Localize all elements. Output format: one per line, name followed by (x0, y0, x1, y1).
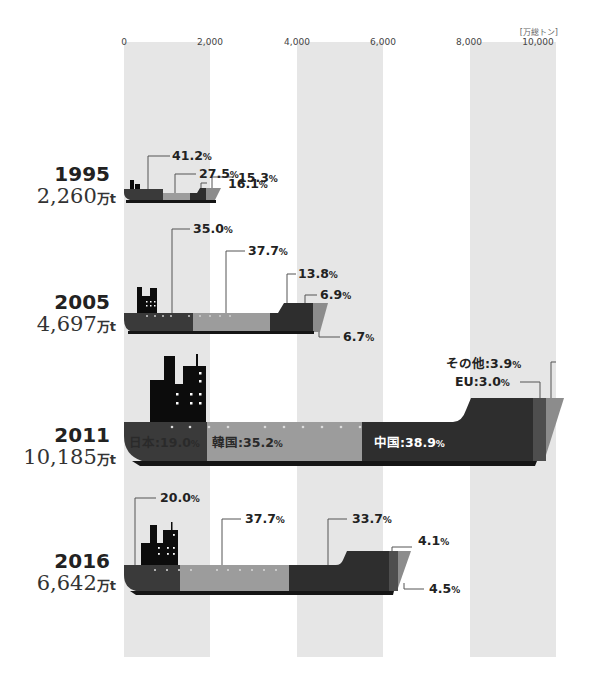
label-2011-china: 中国:38.9% (374, 432, 445, 451)
total-value: 4,697 (37, 312, 97, 336)
label-1995-eu: 15.3% (238, 170, 278, 185)
bridge-icon (137, 287, 142, 313)
label-2011-korea: 韓国:35.2% (212, 432, 283, 451)
label-2016-other: 4.5% (429, 581, 460, 596)
label-2011-other: その他:3.9% (446, 353, 521, 372)
bridge-icon (150, 380, 164, 422)
bridge-icon (141, 543, 150, 565)
label-2005-china: 13.8% (298, 266, 338, 281)
row-total-1995: 2,260万t (0, 184, 116, 208)
label-2005-korea: 37.7% (248, 243, 288, 258)
bridge-icon (130, 180, 134, 189)
row-total-2016: 6,642万t (0, 571, 116, 595)
label-2011-eu: EU:3.0% (455, 374, 510, 389)
label-2005-eu: 6.9% (320, 287, 351, 302)
row-total-2011: 10,185万t (0, 445, 116, 469)
total-unit: 万t (97, 319, 116, 334)
label-2011-japan: 日本:19.0% (129, 432, 200, 451)
row-total-2005: 4,697万t (0, 312, 116, 336)
label-2016-korea: 37.7% (245, 511, 285, 526)
label-1995-japan: 41.2% (172, 148, 212, 163)
label-2005-other: 6.7% (343, 329, 374, 344)
row-year-2016: 2016 (0, 549, 110, 573)
label-2005-japan: 35.0% (193, 221, 233, 236)
row-year-1995: 1995 (0, 162, 110, 186)
ship-2005 (124, 229, 340, 337)
label-2016-china: 33.7% (352, 511, 392, 526)
row-year-2005: 2005 (0, 290, 110, 314)
total-value: 2,260 (37, 184, 97, 208)
total-value: 6,642 (37, 571, 97, 595)
row-year-2011: 2011 (0, 423, 110, 447)
label-2016-eu: 4.1% (418, 533, 449, 548)
total-unit: 万t (97, 452, 116, 467)
total-unit: 万t (97, 578, 116, 593)
total-value: 10,185 (23, 445, 96, 469)
label-2016-japan: 20.0% (160, 490, 200, 505)
total-unit: 万t (97, 191, 116, 206)
